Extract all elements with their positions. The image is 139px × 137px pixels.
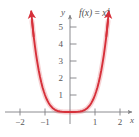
x-tick-label-1: 1 (87, 118, 103, 127)
y-tick-label-5: 5 (48, 23, 63, 32)
y-tick-label-1: 1 (48, 91, 63, 100)
x-axis-label: x (130, 116, 134, 125)
y-tick-label-4: 4 (48, 40, 63, 49)
function-label: f(x) = x4 (79, 5, 110, 18)
y-axis-ticks (70, 27, 77, 95)
y-tick-label-3: 3 (48, 57, 63, 66)
x-tick-label--2: −2 (12, 118, 28, 127)
function-label-equals: = (92, 8, 102, 18)
x-tick-label-2: 2 (112, 118, 128, 127)
x-tick-label--1: −1 (37, 118, 53, 127)
y-axis-label: y (61, 8, 65, 17)
graph-figure: −2 −1 1 2 1 2 3 4 5 y x f(x) = x4 (0, 0, 139, 137)
y-tick-label-2: 2 (48, 74, 63, 83)
function-label-exponent: 4 (107, 6, 110, 13)
